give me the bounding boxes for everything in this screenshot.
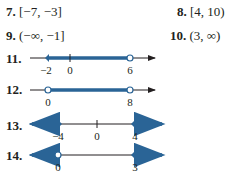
number-line-11: −2 0 6 (30, 54, 155, 76)
svg-text:0: 0 (45, 96, 51, 108)
svg-text:0: 0 (67, 64, 73, 76)
number-line-figures: −2 0 6 0 8 −4 0 4 0 3 (0, 0, 225, 183)
number-line-14: 0 3 (30, 151, 162, 173)
svg-text:0: 0 (94, 130, 100, 142)
svg-text:4: 4 (132, 130, 138, 142)
svg-text:−4: −4 (52, 130, 64, 142)
svg-text:−2: −2 (40, 64, 52, 76)
svg-text:0: 0 (55, 161, 61, 173)
number-line-12: 0 8 (30, 87, 155, 108)
svg-text:8: 8 (127, 96, 133, 108)
svg-text:3: 3 (132, 161, 138, 173)
number-line-13: −4 0 4 (30, 120, 162, 142)
svg-text:6: 6 (127, 64, 133, 76)
